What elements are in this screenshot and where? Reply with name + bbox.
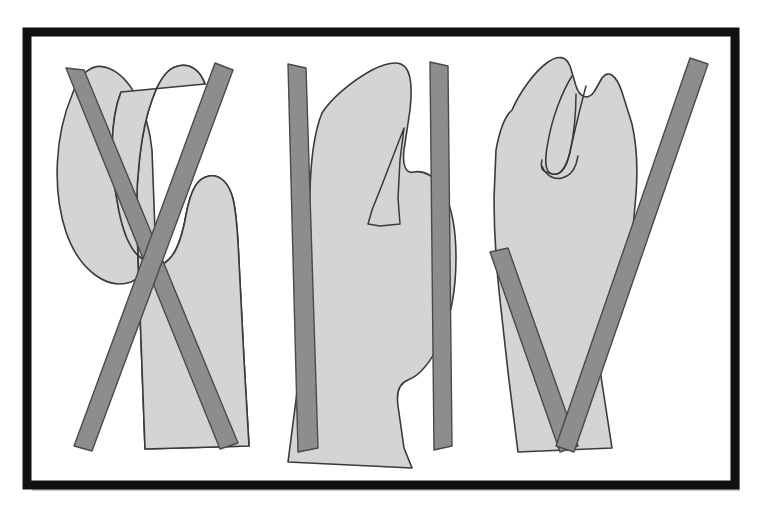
diagram-svg [0, 0, 763, 508]
figure-canvas: Hand silhouette diagram with crossed bar… [0, 0, 763, 508]
bar-descending-left [430, 62, 452, 450]
